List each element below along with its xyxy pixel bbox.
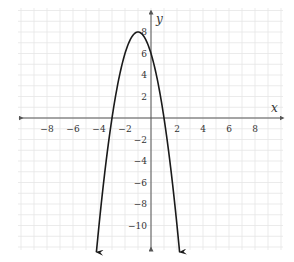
parabola-graph: −8−6−4−22468 8642−2−4−6−8−10 x y bbox=[0, 0, 294, 262]
y-tick-label: 8 bbox=[141, 27, 147, 37]
x-tick-label: 8 bbox=[252, 124, 258, 134]
y-tick-label: −10 bbox=[128, 221, 147, 231]
x-tick-label: 4 bbox=[200, 124, 206, 134]
y-tick-label: 6 bbox=[141, 49, 147, 59]
y-tick-label: 2 bbox=[141, 92, 147, 102]
y-tick-label: 4 bbox=[141, 70, 147, 80]
x-tick-label: −8 bbox=[40, 124, 54, 134]
x-tick-label: −6 bbox=[66, 124, 80, 134]
y-tick-label: −4 bbox=[134, 156, 148, 166]
x-axis-label: x bbox=[271, 101, 278, 115]
x-tick-label: −4 bbox=[92, 124, 106, 134]
x-tick-label: 2 bbox=[174, 124, 180, 134]
y-tick-label: −6 bbox=[134, 178, 148, 188]
x-tick-label: 6 bbox=[226, 124, 232, 134]
y-tick-label: −8 bbox=[134, 199, 148, 209]
y-tick-label: −2 bbox=[134, 135, 147, 145]
y-axis-label: y bbox=[155, 12, 163, 26]
x-tick-label: −2 bbox=[118, 124, 131, 134]
